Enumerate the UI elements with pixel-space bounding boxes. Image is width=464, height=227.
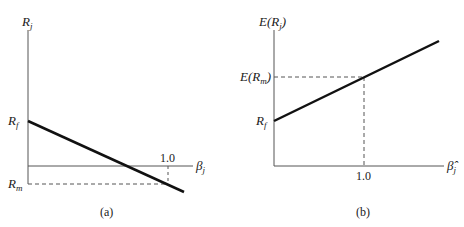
panel-b-erm-label: E(Rm) — [240, 70, 271, 86]
panel-b-caption: (b) — [356, 206, 370, 218]
panel-a-y-axis-label: Rj — [22, 15, 32, 31]
panel-a-caption: (a) — [100, 206, 113, 218]
panel-a-x-tick-label: 1.0 — [160, 152, 175, 164]
panel-a-rm-label: Rm — [8, 177, 22, 193]
panel-a-rf-label: Rf — [8, 114, 18, 130]
panel-a-x-axis-label: βj — [196, 159, 205, 175]
panel-b-sml-line — [274, 41, 439, 121]
panel-a-graphics — [28, 30, 193, 192]
panel-b-x-axis-label: β̂j — [447, 159, 456, 175]
diagram-canvas — [0, 0, 464, 227]
panel-b-y-axis-label: E(Rj) — [259, 15, 286, 31]
panel-b-rf-label: Rf — [256, 114, 266, 130]
panel-b-graphics — [274, 30, 444, 166]
panel-b-x-tick-label: 1.0 — [356, 170, 371, 182]
